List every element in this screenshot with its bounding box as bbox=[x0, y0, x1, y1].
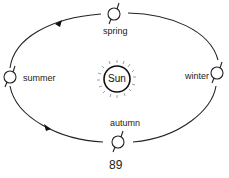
earth-winter-icon bbox=[211, 62, 223, 83]
season-label-autumn: autumn bbox=[110, 118, 140, 128]
season-label-summer: summer bbox=[23, 73, 56, 83]
earth-summer-icon bbox=[4, 66, 16, 87]
sun-label: Sun bbox=[108, 73, 126, 84]
orbit-arrow-icon bbox=[44, 124, 51, 131]
earth-autumn-icon bbox=[112, 131, 124, 152]
orbit-arrow-icon bbox=[55, 20, 62, 27]
season-label-winter: winter bbox=[185, 71, 209, 81]
earth-orbit-diagram: Sun spring summer autumn winter 89 bbox=[0, 0, 229, 178]
page-number: 89 bbox=[109, 158, 122, 172]
season-label-spring: spring bbox=[103, 26, 128, 36]
earth-spring-icon bbox=[108, 3, 120, 24]
